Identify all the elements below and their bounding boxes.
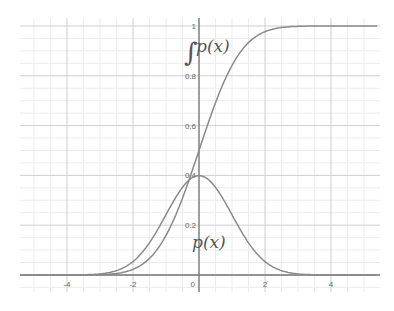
y-tick-label: 0.6 (185, 122, 197, 131)
y-tick-label: 0.8 (185, 72, 197, 81)
curve-labels: ∫ p(x) p(x) (184, 36, 230, 252)
x-tick-label: -2 (129, 280, 137, 289)
pdf-label: p(x) (192, 232, 226, 252)
chart: -4-22400.20.40.60.81 ∫ p(x) p(x) (0, 0, 394, 311)
y-tick-label: 1 (192, 22, 197, 31)
cdf-label: p(x) (196, 36, 230, 56)
y-tick-label: 0.2 (185, 221, 197, 230)
x-tick-label: 2 (263, 280, 268, 289)
origin-label: 0 (191, 280, 196, 289)
x-tick-label: -4 (63, 280, 71, 289)
x-tick-label: 4 (329, 280, 334, 289)
